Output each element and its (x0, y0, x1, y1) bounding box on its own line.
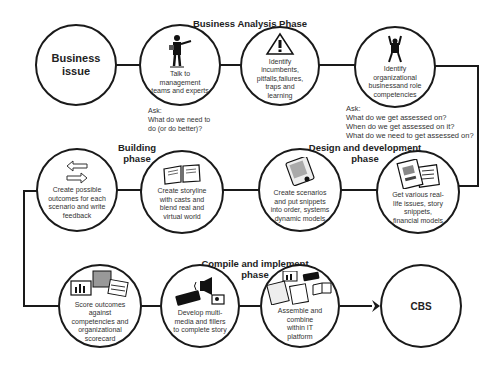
swap-arrows-icon (65, 160, 89, 184)
node-create-scenarios: Create scenarios and put snippets into o… (258, 148, 342, 232)
node-identify-competencies: Identify organizational businessand role… (354, 26, 436, 108)
node-business-issue: Business issue (35, 24, 117, 106)
node-label: Business issue (51, 52, 101, 78)
ask-line: What do we get assessed on? (346, 113, 474, 122)
node-label: Develop multi-media and fillers to compl… (166, 309, 234, 335)
presenter-figure-icon (167, 34, 193, 68)
node-identify-incumbents: Identify incumbents, pitfalls,failures, … (240, 26, 320, 106)
ask-block-1: Ask: What do we need to do (or do better… (148, 106, 210, 133)
node-label: Identify incumbents, pitfalls,failures, … (247, 58, 313, 101)
node-get-real-life: Get various real-life issues, story snip… (376, 150, 460, 234)
assets-collage-icon (267, 271, 333, 305)
node-create-outcomes: Create possible outcomes for each scenar… (36, 148, 118, 232)
documents-icon (396, 159, 440, 189)
node-label: Get various real-life issues, story snip… (385, 191, 451, 225)
warning-triangle-icon (265, 32, 295, 56)
node-talk-management: Talk to management teams and experts (139, 24, 221, 106)
node-label: Create scenarios and put snippets into o… (263, 189, 337, 223)
node-assemble: Assemble and combine within IT platform (260, 264, 340, 348)
node-label: CBS (410, 300, 431, 313)
node-cbs: CBS (380, 264, 462, 348)
node-label: Talk to management teams and experts (144, 70, 216, 96)
ask-line: When do we get assessed on it? (346, 122, 474, 131)
ask-line: What do we need to get assessed on? (346, 131, 474, 140)
open-book-icon (162, 163, 202, 185)
cheering-figure-icon (385, 35, 405, 63)
ask-block-2: Ask: What do we get assessed on? When do… (346, 104, 474, 140)
node-score-outcomes: Score outcomes against competencies and … (58, 264, 142, 348)
node-label: Create storyline with casts and blend re… (150, 187, 214, 221)
node-label: Identify organizational businessand role… (359, 65, 431, 99)
ask-title: Ask: (346, 104, 474, 113)
node-label: Create possible outcomes for each scenar… (41, 186, 113, 220)
ask-line: do (or do better)? (148, 124, 210, 133)
charts-icon (69, 269, 131, 299)
node-develop-multimedia: Develop multi-media and fillers to compl… (160, 264, 240, 348)
ask-line: What do we need to (148, 115, 210, 124)
node-label: Assemble and combine within IT platform (271, 307, 329, 341)
tablet-device-icon (283, 157, 317, 187)
ask-title: Ask: (148, 106, 210, 115)
multimedia-icon (172, 277, 228, 307)
node-label: Score outcomes against competencies and … (61, 301, 139, 344)
node-create-storyline: Create storyline with casts and blend re… (140, 150, 224, 234)
